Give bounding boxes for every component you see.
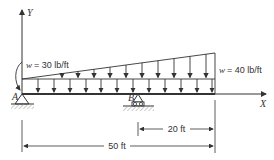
dimension-20ft: 20 ft <box>140 124 213 134</box>
right-load-value: = 40 lb/ft <box>227 65 262 75</box>
left-load-symbol: w <box>26 60 32 70</box>
svg-text:w= 30 lb/ft: w= 30 lb/ft <box>26 60 69 70</box>
dimension-50ft: 50 ft <box>24 141 213 151</box>
dimension-50ft-label: 50 ft <box>108 141 126 151</box>
dimension-20ft-label: 20 ft <box>168 124 186 134</box>
uniform-load <box>22 79 215 94</box>
curved-arrow-icon <box>16 62 22 90</box>
right-load-label: w= 40 lb/ft <box>219 65 262 75</box>
svg-text:w= 40 lb/ft: w= 40 lb/ft <box>219 65 262 75</box>
y-axis: Y <box>22 7 34 94</box>
support-a-label: A <box>11 91 19 102</box>
left-load-value: = 30 lb/ft <box>34 60 69 70</box>
y-axis-label: Y <box>27 7 34 18</box>
x-axis-label: X <box>259 98 267 109</box>
right-load-symbol: w <box>219 65 225 75</box>
support-b-label: B <box>128 92 134 103</box>
beam-diagram: Y X <box>0 0 274 160</box>
left-load-label: w= 30 lb/ft <box>26 60 69 70</box>
